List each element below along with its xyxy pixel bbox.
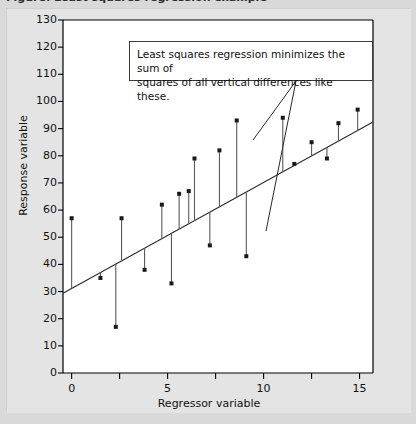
x-tick-label: 0 bbox=[52, 382, 92, 395]
data-point-marker bbox=[114, 325, 118, 329]
x-tick-label: 15 bbox=[340, 382, 380, 395]
y-tick-label: 60 bbox=[19, 203, 57, 216]
data-point-marker bbox=[169, 281, 173, 285]
y-tick-label: 30 bbox=[19, 285, 57, 298]
data-point-marker bbox=[292, 162, 296, 166]
data-point-marker bbox=[281, 116, 285, 120]
x-tick-label: 5 bbox=[148, 382, 188, 395]
y-tick-label: 120 bbox=[19, 40, 57, 53]
data-point-marker bbox=[192, 156, 196, 160]
y-tick-label: 80 bbox=[19, 149, 57, 162]
chart-figure: Response variable Regressor variable 010… bbox=[6, 8, 410, 412]
data-point-marker bbox=[336, 121, 340, 125]
data-point-marker bbox=[187, 189, 191, 193]
data-point-marker bbox=[325, 156, 329, 160]
page-caption-strip: Figure: Least squares regression example bbox=[0, 0, 416, 8]
data-point-marker bbox=[70, 216, 74, 220]
data-point-marker bbox=[244, 254, 248, 258]
data-point-marker bbox=[310, 140, 314, 144]
data-point-marker bbox=[120, 216, 124, 220]
y-tick-label: 10 bbox=[19, 339, 57, 352]
y-tick-label: 100 bbox=[19, 94, 57, 107]
x-tick-label: 10 bbox=[244, 382, 284, 395]
y-tick-label: 70 bbox=[19, 176, 57, 189]
y-tick-label: 110 bbox=[19, 67, 57, 80]
data-point-marker bbox=[217, 148, 221, 152]
data-point-marker bbox=[98, 276, 102, 280]
y-tick-label: 40 bbox=[19, 257, 57, 270]
y-tick-label: 130 bbox=[19, 13, 57, 26]
data-point-marker bbox=[160, 203, 164, 207]
screenshot-root: Figure: Least squares regression example… bbox=[0, 0, 416, 424]
y-tick-label: 50 bbox=[19, 230, 57, 243]
y-tick-label: 90 bbox=[19, 122, 57, 135]
data-point-marker bbox=[143, 268, 147, 272]
annotation-line-2: squares of all vertical differences like… bbox=[137, 75, 365, 103]
y-tick-label: 20 bbox=[19, 312, 57, 325]
page-caption-text: Figure: Least squares regression example bbox=[6, 0, 267, 4]
data-point-marker bbox=[235, 118, 239, 122]
y-tick-label: 0 bbox=[19, 366, 57, 379]
x-axis-title: Regressor variable bbox=[7, 397, 411, 410]
annotation-line-1: Least squares regression minimizes the s… bbox=[137, 47, 365, 75]
data-point-marker bbox=[177, 192, 181, 196]
data-point-marker bbox=[356, 108, 360, 112]
data-point-marker bbox=[208, 243, 212, 247]
annotation-box: Least squares regression minimizes the s… bbox=[129, 41, 373, 81]
